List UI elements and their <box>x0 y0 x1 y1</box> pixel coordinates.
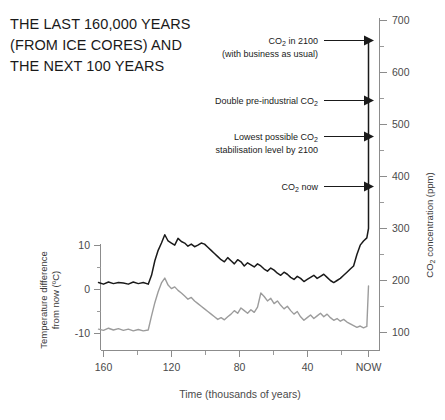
series-co2 <box>99 41 369 284</box>
annotation-lowest-stabilisation-line1: Lowest possible CO2 <box>234 132 318 143</box>
climate-chart: THE LAST 160,000 YEARS (FROM ICE CORES) … <box>0 0 445 420</box>
annotation-lowest-stabilisation: Lowest possible CO2 stabilisation level … <box>215 132 374 156</box>
series-temperature <box>99 278 369 331</box>
x-tick-label-80: 80 <box>234 361 246 373</box>
annotation-co2-2100-line1: CO2 in 2100 <box>269 36 318 47</box>
x-tick-label-160: 160 <box>95 361 113 373</box>
x-tick-label-now: NOW <box>356 361 382 373</box>
right-tick-label-600: 600 <box>392 66 410 78</box>
annotation-co2-now-line1: CO2 now <box>282 182 319 193</box>
left-axis-title-line2: from now (ºC) <box>50 271 61 329</box>
right-tick-label-500: 500 <box>392 118 410 130</box>
left-tick-label-10: 10 <box>78 239 90 251</box>
left-axis-title: Temperature difference from now (ºC) <box>38 251 61 349</box>
right-tick-label-200: 200 <box>392 274 410 286</box>
x-axis-title: Time (thousands of years) <box>179 388 301 400</box>
right-tick-label-700: 700 <box>392 14 410 26</box>
x-tick-label-120: 120 <box>163 361 181 373</box>
left-tick-label-0: 0 <box>84 283 90 295</box>
x-tick-label-40: 40 <box>302 361 314 373</box>
right-tick-label-100: 100 <box>392 326 410 338</box>
right-tick-label-400: 400 <box>392 170 410 182</box>
plot-area: 10 0 -10 Temperature difference from now… <box>0 0 445 420</box>
annotation-co2-2100: CO2 in 2100 (with business as usual) <box>222 36 374 60</box>
annotation-double-preindustrial-line1: Double pre-industrial CO2 <box>215 96 318 107</box>
left-tick-label-neg10: -10 <box>75 327 90 339</box>
annotation-co2-now: CO2 now <box>282 182 374 193</box>
left-axis-title-line1: Temperature difference <box>38 251 49 349</box>
left-axis-ticks <box>94 246 101 334</box>
right-axis-ticks <box>380 21 388 333</box>
right-axis-title: CO2 concentration (ppm) <box>424 172 436 277</box>
x-axis-ticks <box>104 351 369 358</box>
annotation-double-preindustrial: Double pre-industrial CO2 <box>215 96 374 107</box>
annotation-co2-2100-line2: (with business as usual) <box>222 49 318 59</box>
right-tick-label-300: 300 <box>392 222 410 234</box>
annotation-lowest-stabilisation-line2: stabilisation level by 2100 <box>215 145 318 155</box>
